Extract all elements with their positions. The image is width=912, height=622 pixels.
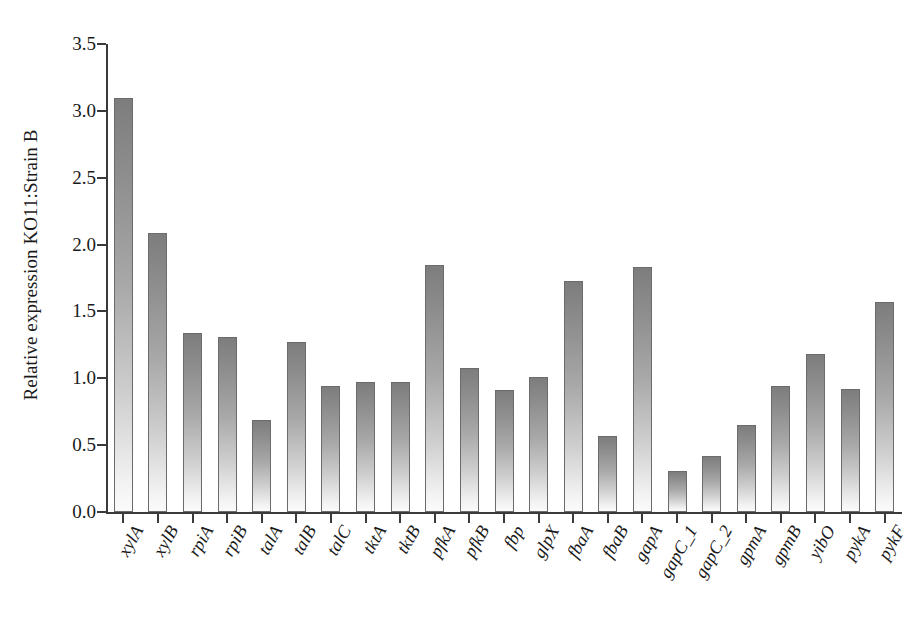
x-tick-label: talA [254,522,287,558]
x-tick-label: pfkB [460,522,495,561]
y-tick-label: 1.5 [72,300,96,322]
x-tick-label: rpiA [184,522,218,560]
bar [148,233,167,512]
x-tick-label: tktA [358,522,391,558]
x-tick-label: pykF [874,522,910,564]
x-tick-label: gpmB [767,522,806,569]
x-tick-label: rpiB [218,522,252,560]
bar [183,333,202,512]
y-axis-tick-labels: 0.00.51.01.52.02.53.03.5 [58,0,104,560]
x-axis-tick-labels: xylAxylBrpiArpiBtalAtalBtalCtktAtktBpfkA… [106,522,902,622]
y-tick-mark [97,110,106,112]
bar [598,436,617,512]
bar-series [106,44,902,512]
x-tick-label: xylB [149,522,183,560]
bar [321,386,340,512]
bar [218,337,237,512]
x-tick-label: tktB [393,522,426,558]
y-tick-mark [97,377,106,379]
bar [633,267,652,512]
x-tick-label: glpX [529,522,564,562]
bar [841,389,860,512]
bar [771,386,790,512]
bar-chart-figure: Relative expression KO11:Strain B 0.00.5… [0,0,912,622]
plot-area [106,44,902,512]
x-tick-label: gpmA [732,522,771,569]
x-tick-label: talC [322,522,356,559]
x-tick-label: fbaA [563,522,598,562]
bar [425,265,444,512]
y-tick-label: 0.0 [72,501,96,523]
bar [668,471,687,512]
y-tick-mark [97,244,106,246]
x-tick-label: fbaB [598,522,633,562]
y-axis-title: Relative expression KO11:Strain B [20,129,42,400]
bar [702,456,721,512]
y-tick-mark [97,177,106,179]
bar [529,377,548,512]
y-tick-mark [97,444,106,446]
bar [495,390,514,512]
bar [875,302,894,512]
bar [252,420,271,512]
y-tick-mark [97,43,106,45]
y-tick-label: 0.5 [72,434,96,456]
y-tick-label: 1.0 [72,367,96,389]
bar [391,382,410,512]
bar [114,98,133,513]
y-tick-label: 3.5 [72,33,96,55]
bar [356,382,375,512]
y-tick-mark [97,511,106,513]
x-tick-label: pfkA [425,522,460,561]
y-axis-title-container: Relative expression KO11:Strain B [0,0,62,530]
x-tick-label: yibO [805,522,841,563]
bar [287,342,306,512]
y-tick-label: 3.0 [72,100,96,122]
bar [806,354,825,512]
x-tick-label: fbp [499,522,529,552]
bar [737,425,756,512]
y-tick-label: 2.5 [72,167,96,189]
x-tick-label: pykA [839,522,875,564]
y-tick-mark [97,310,106,312]
x-tick-label: talB [288,522,321,558]
bar [460,368,479,512]
bar [564,281,583,512]
x-tick-label: xylA [114,522,148,560]
y-tick-label: 2.0 [72,234,96,256]
